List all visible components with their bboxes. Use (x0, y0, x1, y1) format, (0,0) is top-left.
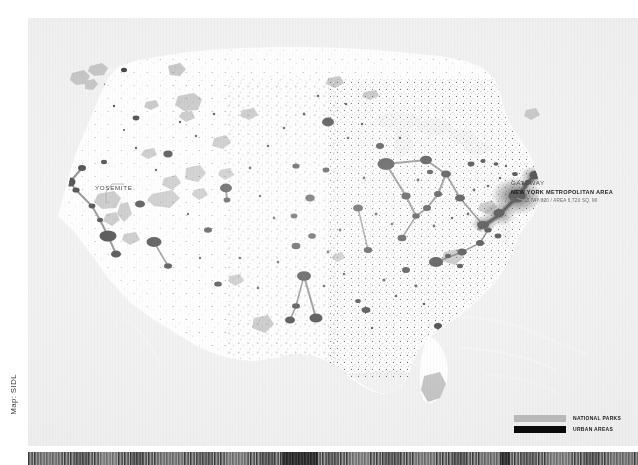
metro-baton-rouge (355, 299, 361, 303)
legend-label-urban-areas: URBAN AREAS (573, 426, 613, 433)
metro-salt-lake-city (163, 151, 172, 158)
legend-row-urban-areas: URBAN AREAS (514, 425, 626, 434)
metro-syracuse (494, 162, 499, 166)
metro-las-vegas (135, 200, 145, 207)
metro-reno (101, 160, 107, 164)
map-credit: Map: SIDL (9, 366, 18, 424)
metro-kansas-city (305, 195, 315, 202)
metro-tulsa (308, 233, 316, 239)
metro-oklahoma-city (292, 243, 301, 249)
metro-el-paso (214, 281, 222, 286)
metro-rochester (480, 159, 485, 163)
callout-gateway-title: GATEWAY (511, 178, 633, 187)
metro-albany (512, 172, 518, 176)
metro-toledo (427, 170, 433, 174)
callout-gateway-subtitle: NEW YORK METROPOLITAN AREA (511, 188, 633, 197)
map-legend: NATIONAL PARKS URBAN AREAS (514, 414, 626, 436)
metro-norfolk (495, 234, 502, 239)
map-plate[interactable] (28, 18, 638, 446)
legend-row-national-parks: NATIONAL PARKS (514, 414, 626, 423)
metro-philadelphia (494, 209, 505, 217)
metro-spokane (121, 68, 127, 72)
metro-wichita (291, 214, 298, 219)
photo-strip-graphic (28, 452, 638, 465)
metro-columbia (457, 264, 463, 268)
callout-yosemite[interactable]: YOSEMITE (95, 183, 133, 192)
metro-omaha (292, 163, 299, 168)
urban-speckle-midwest (228, 78, 338, 368)
legend-label-national-parks: NATIONAL PARKS (573, 415, 621, 422)
metro-albuquerque (204, 227, 212, 233)
callout-gateway-stats: POP. 18,747,320 / AREA 6,720 SQ. MI (511, 197, 633, 205)
callout-yosemite-title: YOSEMITE (95, 183, 133, 192)
page-root: GATEWAY NEW YORK METROPOLITAN AREA POP. … (0, 0, 638, 465)
metro-new-orleans (362, 307, 371, 313)
metro-buffalo (468, 162, 475, 167)
metro-milwaukee (376, 143, 384, 149)
legend-swatch-urban-areas (514, 426, 566, 433)
callout-gateway[interactable]: GATEWAY NEW YORK METROPOLITAN AREA POP. … (511, 178, 633, 205)
metro-birmingham (402, 267, 410, 273)
urban-speckle-plains (168, 78, 230, 368)
bottom-photo-strip (28, 452, 638, 465)
metro-minneapolis (322, 118, 334, 127)
metro-des-moines (323, 168, 330, 173)
metro-boise (133, 116, 140, 121)
us-map-graphic[interactable] (28, 18, 638, 446)
legend-swatch-national-parks (514, 415, 566, 422)
